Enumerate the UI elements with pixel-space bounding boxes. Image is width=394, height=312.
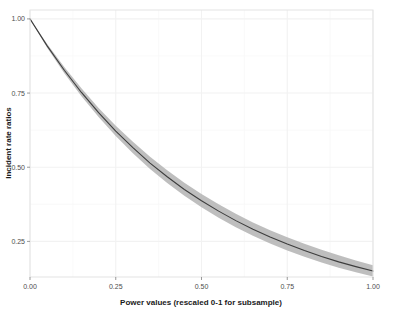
x-axis-tick-label: 0.00 [23,283,37,290]
y-axis-tick-label: 0.25 [11,238,25,245]
chart-figure: 0.000.250.500.751.00 0.250.500.751.00 Po… [0,0,394,312]
y-axis-tick-label: 0.75 [11,90,25,97]
x-axis-tick-label: 0.75 [280,283,294,290]
x-axis-title: Power values (rescaled 0-1 for subsample… [120,298,282,307]
y-axis-tick-label: 1.00 [11,15,25,22]
x-axis-tick-label: 1.00 [366,283,380,290]
chart-plot-svg: 0.000.250.500.751.00 0.250.500.751.00 Po… [0,0,394,312]
y-axis-tick-label: 0.50 [11,164,25,171]
y-axis-title: Incident rate ratios [4,107,13,179]
x-axis-tick-label: 0.50 [195,283,209,290]
x-axis-tick-label: 0.25 [109,283,123,290]
